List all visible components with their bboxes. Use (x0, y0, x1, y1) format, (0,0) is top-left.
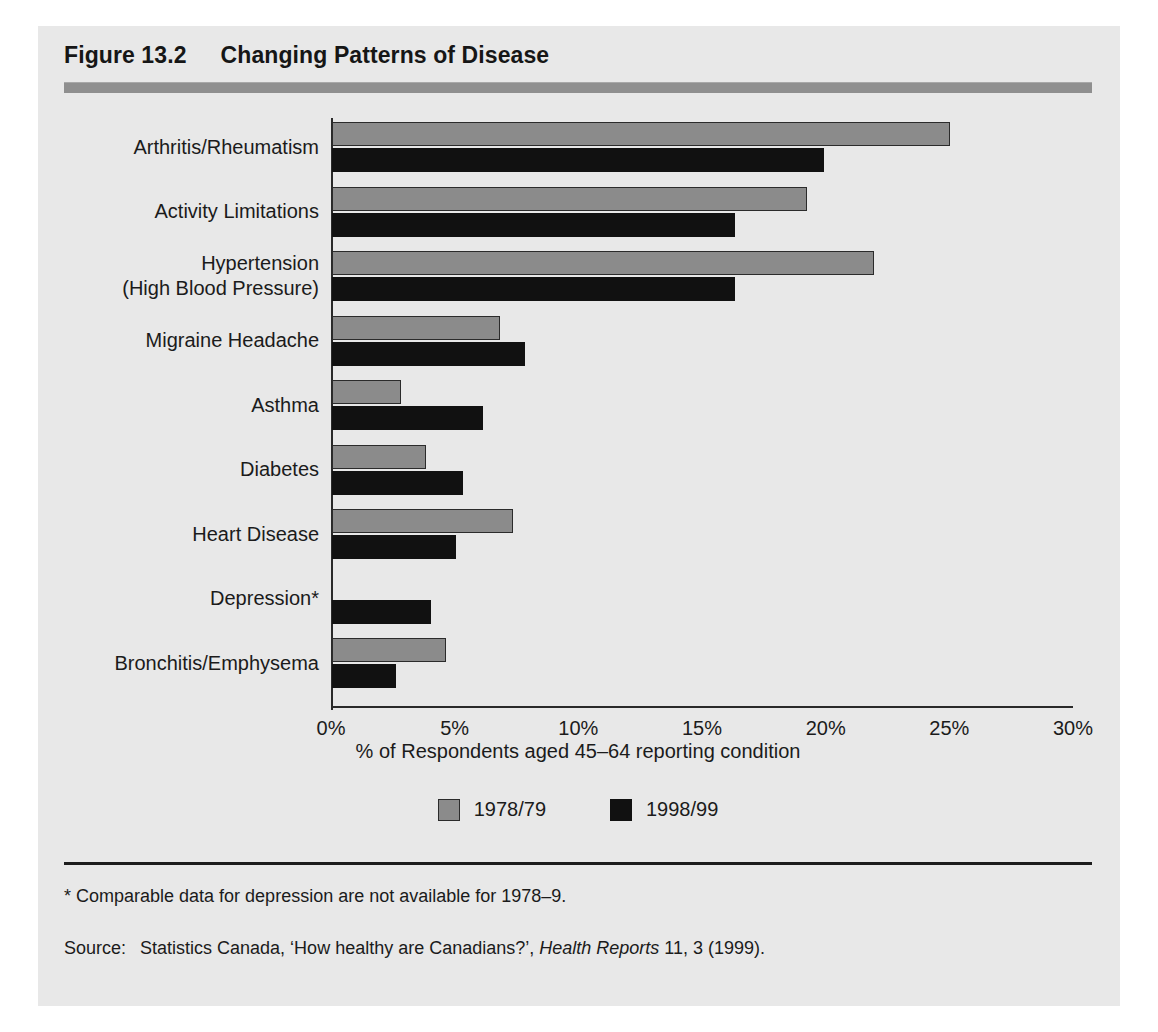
legend-item-1998: 1998/99 (610, 798, 718, 821)
x-axis-title: % of Respondents aged 45–64 reporting co… (64, 740, 1092, 763)
category-label: Asthma (64, 393, 319, 418)
bar-1998 (332, 213, 735, 237)
category-label: Hypertension (High Blood Pressure) (64, 251, 319, 301)
source-line: Source:Statistics Canada, ‘How healthy a… (64, 938, 1092, 959)
bar-1998 (332, 406, 483, 430)
category-label: Heart Disease (64, 522, 319, 547)
category-label: Migraine Headache (64, 328, 319, 353)
x-tick-label: 30% (1053, 717, 1093, 740)
category-label: Arthritis/Rheumatism (64, 135, 319, 160)
source-key: Source: (64, 938, 126, 958)
legend-swatch-1998 (610, 799, 632, 821)
bar-1978 (332, 509, 513, 533)
legend-label-1998: 1998/99 (646, 798, 718, 821)
category-label: Depression* (64, 586, 319, 611)
footnote-depression: * Comparable data for depression are not… (64, 886, 1092, 907)
x-tick-label: 0% (317, 717, 346, 740)
x-axis-line (331, 706, 1073, 708)
bar-1978 (332, 122, 950, 146)
x-tick-label: 20% (806, 717, 846, 740)
x-tick-label: 5% (440, 717, 469, 740)
legend-item-1978: 1978/79 (438, 798, 546, 821)
category-axis-labels: Arthritis/RheumatismActivity Limitations… (64, 114, 331, 724)
bar-1998 (332, 664, 396, 688)
bar-1998 (332, 471, 463, 495)
figure-header: Figure 13.2Changing Patterns of Disease (64, 42, 549, 69)
source-journal: Health Reports (539, 938, 659, 958)
bar-1978 (332, 251, 874, 275)
x-tick-label: 15% (682, 717, 722, 740)
source-post: 11, 3 (1999). (659, 938, 765, 958)
bar-1978 (332, 638, 446, 662)
chart-legend: 1978/79 1998/99 (64, 798, 1092, 821)
category-label: Activity Limitations (64, 199, 319, 224)
bar-1978 (332, 187, 807, 211)
chart-plot-area: Arthritis/RheumatismActivity Limitations… (64, 114, 1094, 724)
figure-number: Figure 13.2 (64, 42, 187, 68)
bar-1978 (332, 316, 500, 340)
header-rule (64, 82, 1092, 93)
figure-title: Changing Patterns of Disease (221, 42, 550, 68)
bar-1998 (332, 277, 735, 301)
category-label: Bronchitis/Emphysema (64, 651, 319, 676)
x-tick-label: 25% (929, 717, 969, 740)
bar-1998 (332, 600, 431, 624)
bar-1998 (332, 535, 456, 559)
bar-1978 (332, 445, 426, 469)
legend-label-1978: 1978/79 (474, 798, 546, 821)
bars-region: 0%5%10%15%20%25%30% (331, 114, 1094, 724)
legend-swatch-1978 (438, 799, 460, 821)
source-pre: Statistics Canada, ‘How healthy are Cana… (140, 938, 539, 958)
bar-1978 (332, 380, 401, 404)
figure-card: Figure 13.2Changing Patterns of Disease … (38, 26, 1120, 1006)
category-label: Diabetes (64, 457, 319, 482)
bar-1998 (332, 148, 824, 172)
footer-rule (64, 862, 1092, 865)
bar-1998 (332, 342, 525, 366)
x-tick-label: 10% (558, 717, 598, 740)
